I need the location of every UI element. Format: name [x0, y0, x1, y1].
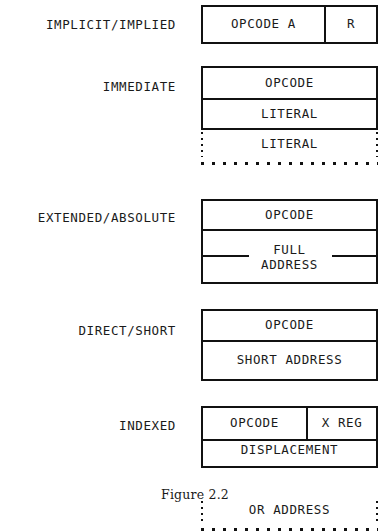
split-rule-right: [349, 466, 376, 468]
format-indexed: OPCODE X REG DISPLACEMENT: [201, 406, 378, 468]
mode-label-direct-short: DIRECT/SHORT: [78, 325, 176, 338]
mode-label-indexed: INDEXED: [119, 420, 176, 433]
field-full-address-line1: FULL: [203, 242, 376, 257]
format-extended-absolute: OPCODE FULL ADDRESS: [201, 199, 378, 284]
field-opcode: OPCODE: [203, 201, 376, 229]
format-immediate-continuation: LITERAL: [201, 132, 378, 165]
split-rule-left: [203, 466, 230, 468]
format-immediate: OPCODE LITERAL: [201, 66, 378, 130]
format-implicit-implied: OPCODE A R: [201, 5, 378, 44]
field-full-address: FULL ADDRESS: [203, 229, 376, 282]
field-literal-continued: LITERAL: [201, 132, 378, 156]
format-indexed-continuation: OR ADDRESS: [201, 501, 378, 531]
field-displacement-text: DISPLACEMENT: [241, 444, 339, 457]
mode-label-extended-absolute: EXTENDED/ABSOLUTE: [38, 212, 176, 225]
field-opcode: OPCODE: [203, 408, 308, 439]
field-opcode-a: OPCODE A: [203, 7, 326, 42]
field-displacement: DISPLACEMENT: [203, 439, 376, 466]
figure-caption: Figure 2.2: [0, 487, 390, 502]
mode-label-implicit-implied: IMPLICIT/IMPLIED: [46, 19, 176, 32]
field-full-address-line2: ADDRESS: [203, 257, 376, 272]
field-opcode: OPCODE: [203, 311, 376, 340]
mode-label-immediate: IMMEDIATE: [103, 81, 176, 94]
dotted-edge-bottom-icon: [201, 162, 378, 165]
format-direct-short: OPCODE SHORT ADDRESS: [201, 309, 378, 381]
field-full-address-text: FULL ADDRESS: [203, 242, 376, 272]
field-register: R: [326, 7, 376, 42]
format-indexed-row-1: OPCODE X REG: [203, 408, 376, 439]
field-index-register: X REG: [308, 408, 376, 439]
field-short-address: SHORT ADDRESS: [203, 340, 376, 379]
field-opcode: OPCODE: [203, 68, 376, 98]
field-or-address: OR ADDRESS: [201, 501, 378, 519]
field-literal: LITERAL: [203, 98, 376, 128]
